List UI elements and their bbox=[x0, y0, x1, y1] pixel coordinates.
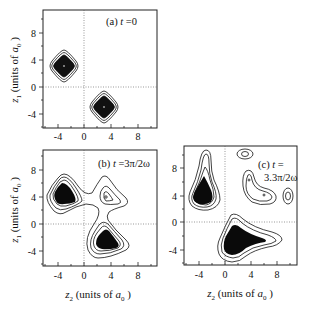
panel-c: -40 48 84 0-4 (c) t = 3.3π/2ω z2 (units … bbox=[169, 146, 298, 302]
svg-text:4: 4 bbox=[172, 191, 177, 202]
panel-c-peak-1 bbox=[193, 176, 213, 204]
svg-text:0: 0 bbox=[172, 217, 177, 228]
svg-text:4: 4 bbox=[109, 270, 114, 281]
svg-text:-4: -4 bbox=[195, 269, 203, 280]
svg-text:0: 0 bbox=[82, 131, 87, 142]
svg-text:8: 8 bbox=[172, 163, 177, 174]
panel-a-x-tick-labels: -40 48 bbox=[54, 131, 141, 142]
svg-text:-4: -4 bbox=[28, 109, 36, 120]
svg-text:0: 0 bbox=[31, 219, 36, 230]
panel-c-label-line2: 3.3π/2ω bbox=[264, 172, 298, 183]
panel-a-ticks bbox=[39, 19, 151, 128]
panel-a-peak-1 bbox=[50, 50, 78, 82]
svg-text:8: 8 bbox=[275, 269, 280, 280]
svg-text:8: 8 bbox=[31, 165, 36, 176]
svg-text:4: 4 bbox=[31, 192, 36, 203]
panel-c-y-tick-labels: 84 0-4 bbox=[169, 163, 177, 256]
panel-a-peak-2 bbox=[90, 91, 118, 123]
figure: -40 48 84 0-4 (a) t =0 z1 (units of a0 ) bbox=[0, 0, 312, 318]
panel-a: -40 48 84 0-4 (a) t =0 z1 (units of a0 ) bbox=[8, 10, 157, 142]
panel-a-y-tick-labels: 84 0-4 bbox=[28, 28, 36, 120]
panel-b-ticks bbox=[39, 156, 151, 266]
panel-c-x-tick-labels: -40 48 bbox=[195, 269, 280, 280]
panel-b-y-tick-labels: 84 0-4 bbox=[28, 165, 36, 257]
svg-text:0: 0 bbox=[223, 269, 228, 280]
svg-text:4: 4 bbox=[249, 269, 254, 280]
panel-c-peak-2 bbox=[224, 225, 266, 255]
panel-b-x-axis-label: z2 (units of a0 ) bbox=[64, 288, 131, 303]
svg-text:-4: -4 bbox=[28, 246, 36, 257]
svg-text:0: 0 bbox=[31, 82, 36, 93]
panel-a-label: (a) t =0 bbox=[106, 16, 137, 28]
svg-text:4: 4 bbox=[109, 131, 114, 142]
panel-c-x-axis-label: z2 (units of a0 ) bbox=[206, 287, 273, 302]
panel-b-y-axis-label: z1 (units of a0 ) bbox=[8, 177, 23, 244]
svg-text:-4: -4 bbox=[169, 245, 177, 256]
svg-text:4: 4 bbox=[31, 55, 36, 66]
panel-c-label: (c) t = bbox=[258, 159, 284, 171]
svg-text:8: 8 bbox=[136, 270, 141, 281]
panel-a-y-axis-label: z1 (units of a0 ) bbox=[8, 37, 23, 104]
svg-text:8: 8 bbox=[136, 131, 141, 142]
panel-b: -40 48 84 0-4 (b) t =3π/2ω z1 (units of … bbox=[8, 150, 157, 303]
panel-b-x-tick-labels: -40 48 bbox=[54, 270, 141, 281]
panel-b-label: (b) t =3π/2ω bbox=[98, 158, 150, 170]
svg-text:-4: -4 bbox=[54, 131, 62, 142]
svg-text:-4: -4 bbox=[54, 270, 62, 281]
svg-text:8: 8 bbox=[31, 28, 36, 39]
svg-text:0: 0 bbox=[82, 270, 87, 281]
